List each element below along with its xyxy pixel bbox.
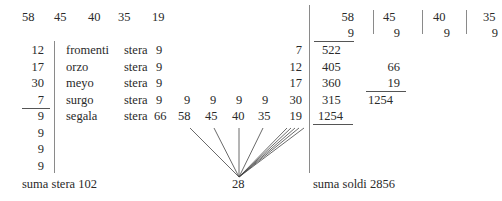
right-divider <box>309 5 310 173</box>
side-sum-total: 1254 <box>368 93 393 107</box>
price-top: 35 <box>483 10 496 24</box>
price-top: 45 <box>383 10 396 24</box>
side-sum-value: 19 <box>380 76 400 90</box>
column-divider <box>373 10 374 34</box>
total-rule <box>313 124 353 125</box>
product-value: 360 <box>322 76 341 90</box>
product-value: 522 <box>322 43 341 57</box>
fan-lines <box>0 0 502 201</box>
product-total: 1254 <box>318 109 343 123</box>
product-value: 315 <box>322 93 341 107</box>
side-sum-value: 66 <box>380 60 400 74</box>
center-value: 28 <box>232 177 245 191</box>
price-top: 58 <box>330 10 354 24</box>
price-bottom: 9 <box>330 26 354 40</box>
sum-soldi-label: suma soldi 2856 <box>313 177 395 191</box>
product-value: 405 <box>322 60 341 74</box>
column-divider <box>422 10 423 34</box>
price-top: 40 <box>433 10 446 24</box>
price-bottom: 9 <box>478 26 498 40</box>
column-divider <box>466 10 467 34</box>
product-rule <box>314 41 354 42</box>
sum-stera-label: suma stera 102 <box>22 177 97 191</box>
side-sum-rule <box>366 91 406 92</box>
price-bottom: 9 <box>380 26 400 40</box>
price-bottom: 9 <box>430 26 450 40</box>
